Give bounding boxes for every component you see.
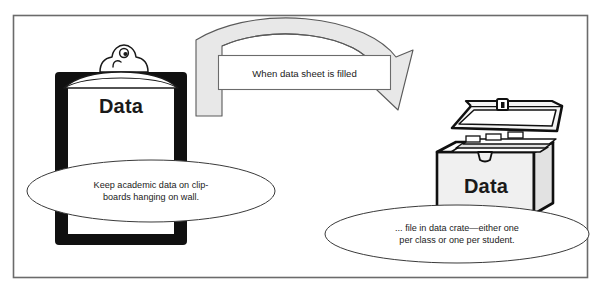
left-callout-line-1: Keep academic data on clip- <box>94 180 209 190</box>
left-callout-line-2: boards hanging on wall. <box>103 192 199 202</box>
crate-lid-inner <box>459 110 556 126</box>
crate-latch-slot <box>501 102 505 108</box>
right-callout-line-2: per class or one per student. <box>399 235 514 245</box>
right-callout-line-1: ... file in data crate—either one <box>395 223 519 233</box>
crate-label: Data <box>464 175 509 197</box>
arrow-label-box: When data sheet is filled <box>219 56 391 90</box>
left-callout: Keep academic data on clip- boards hangi… <box>27 160 275 222</box>
crate-lid-back <box>466 101 562 106</box>
diagram-canvas: When data sheet is filled Data <box>0 0 604 294</box>
right-callout: ... file in data crate—either one per cl… <box>325 205 589 263</box>
clipboard-label: Data <box>99 95 144 117</box>
crate-handle <box>478 152 492 162</box>
arrow-label-text: When data sheet is filled <box>252 68 357 79</box>
diagram-page: When data sheet is filled Data <box>0 0 604 294</box>
crate-folder-tab-1 <box>486 134 501 140</box>
crate-side <box>534 142 553 214</box>
clipboard-clip-pin <box>123 52 127 56</box>
crate-folder-tab-2 <box>508 132 523 138</box>
crate-folder-tab-3 <box>466 136 480 142</box>
